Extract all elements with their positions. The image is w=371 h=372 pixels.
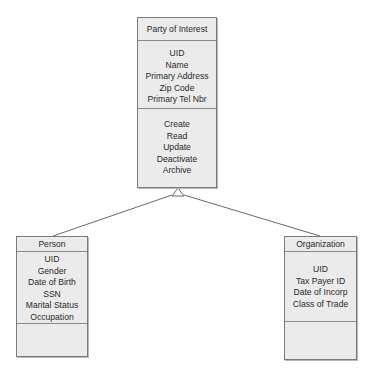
attribute: Tax Payer ID bbox=[285, 276, 356, 288]
attribute: Date of Birth bbox=[17, 277, 87, 289]
attribute: Name bbox=[138, 60, 216, 72]
attribute: Zip Code bbox=[138, 83, 216, 95]
operation: Update bbox=[138, 142, 216, 154]
class-name: Organization bbox=[296, 239, 345, 249]
operation: Read bbox=[138, 131, 216, 143]
operations-section: Create Read Update Deactivate Archive bbox=[138, 108, 216, 187]
class-name: Party of Interest bbox=[147, 24, 208, 34]
operations-section bbox=[17, 323, 87, 356]
attribute: Marital Status bbox=[17, 300, 87, 312]
generalization-triangle-icon bbox=[172, 188, 184, 196]
class-party-of-interest: Party of Interest UID Name Primary Addre… bbox=[137, 17, 217, 188]
attribute: Occupation bbox=[17, 312, 87, 324]
attribute: SSN bbox=[17, 289, 87, 301]
class-organization: Organization UID Tax Payer ID Date of In… bbox=[284, 236, 357, 360]
attributes-section: UID Gender Date of Birth SSN Marital Sta… bbox=[17, 251, 87, 323]
organization-inheritance-line bbox=[184, 195, 320, 236]
class-title: Person bbox=[17, 237, 87, 251]
operation: Deactivate bbox=[138, 154, 216, 166]
attribute: Date of Incorp bbox=[285, 287, 356, 299]
attribute: Primary Tel Nbr bbox=[138, 94, 216, 106]
operation: Create bbox=[138, 119, 216, 131]
attribute: Gender bbox=[17, 266, 87, 278]
attributes-section: UID Name Primary Address Zip Code Primar… bbox=[138, 40, 216, 108]
attribute: UID bbox=[285, 264, 356, 276]
class-title: Party of Interest bbox=[138, 18, 216, 40]
class-name: Person bbox=[38, 239, 65, 249]
class-title: Organization bbox=[285, 237, 356, 251]
attribute: UID bbox=[138, 48, 216, 60]
person-inheritance-line bbox=[53, 195, 172, 236]
attribute: UID bbox=[17, 254, 87, 266]
operations-section bbox=[285, 321, 356, 359]
attributes-section: UID Tax Payer ID Date of Incorp Class of… bbox=[285, 251, 356, 321]
attribute: Primary Address bbox=[138, 71, 216, 83]
class-person: Person UID Gender Date of Birth SSN Mari… bbox=[16, 236, 88, 357]
attribute: Class of Trade bbox=[285, 299, 356, 311]
operation: Archive bbox=[138, 165, 216, 177]
